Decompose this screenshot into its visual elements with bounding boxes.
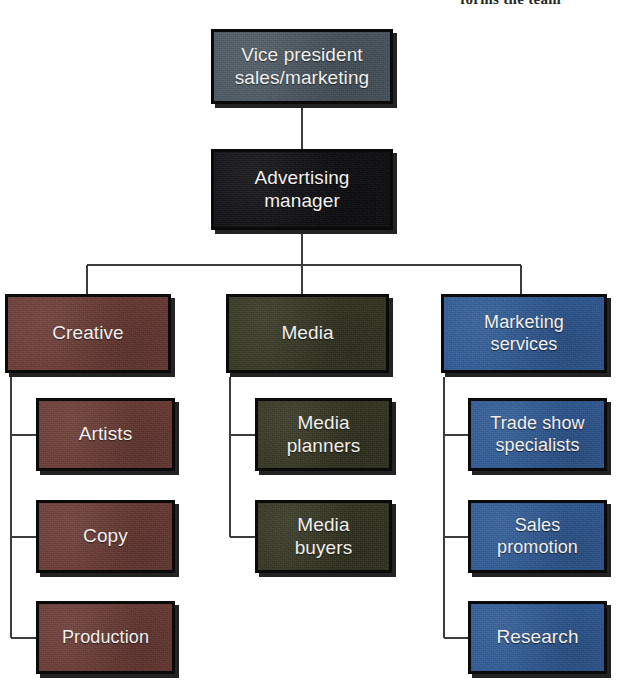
node-label: Sales promotion xyxy=(491,515,584,557)
node-copy[interactable]: Copy xyxy=(36,500,175,573)
node-label: Media buyers xyxy=(289,514,359,559)
node-label: Artists xyxy=(73,423,138,445)
node-label: Advertising manager xyxy=(248,167,355,212)
node-creative[interactable]: Creative xyxy=(5,294,171,373)
node-label: Production xyxy=(56,627,155,648)
node-media[interactable]: Media xyxy=(226,294,389,373)
node-research[interactable]: Research xyxy=(468,601,607,674)
node-trade-show-specialists[interactable]: Trade show specialists xyxy=(468,398,607,471)
node-marketing-services[interactable]: Marketing services xyxy=(441,294,607,373)
node-sales-promotion[interactable]: Sales promotion xyxy=(468,500,607,573)
node-label: Vice president sales/marketing xyxy=(229,44,376,89)
node-label: Marketing services xyxy=(478,312,570,354)
node-label: Media xyxy=(275,322,339,344)
node-production[interactable]: Production xyxy=(36,601,175,674)
node-label: Creative xyxy=(46,322,130,344)
node-label: Research xyxy=(490,626,584,648)
org-chart-figure: forms the team xyxy=(0,0,619,688)
node-vice-president-sales-marketing[interactable]: Vice president sales/marketing xyxy=(211,29,393,104)
node-media-buyers[interactable]: Media buyers xyxy=(255,500,392,573)
node-advertising-manager[interactable]: Advertising manager xyxy=(211,149,393,230)
node-label: Media planners xyxy=(281,412,367,457)
node-label: Copy xyxy=(77,525,134,547)
node-label: Trade show specialists xyxy=(484,413,590,455)
node-media-planners[interactable]: Media planners xyxy=(255,398,392,471)
node-artists[interactable]: Artists xyxy=(36,398,175,471)
